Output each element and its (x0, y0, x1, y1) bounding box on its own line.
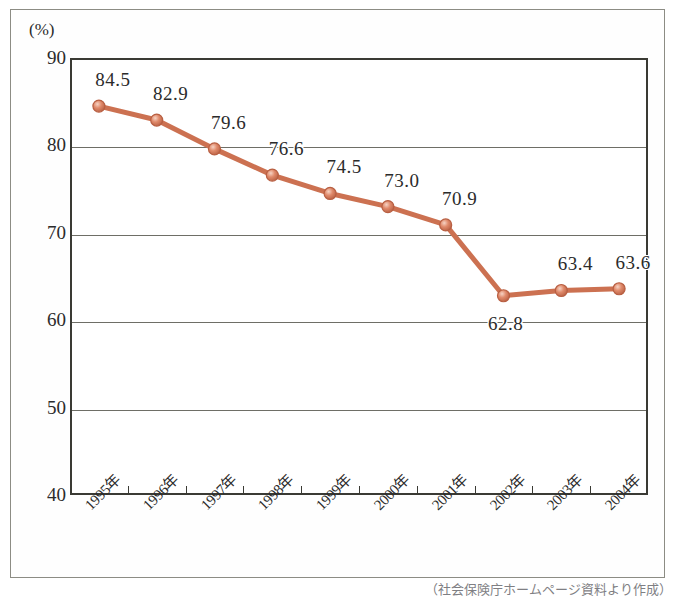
y-axis-tick-label: 90 (20, 47, 66, 69)
y-axis-unit-label: (%) (29, 20, 54, 40)
data-value-label: 62.8 (488, 313, 523, 335)
y-axis-tick-labels: 908070605040 (14, 58, 66, 495)
y-axis-tick-label: 60 (20, 309, 66, 331)
source-note: （社会保険庁ホームページ資料より作成） (0, 579, 672, 598)
data-value-label: 70.9 (442, 188, 477, 210)
data-value-label: 74.5 (326, 156, 361, 178)
data-value-labels: 84.582.979.676.674.573.070.962.863.463.6 (70, 58, 648, 495)
data-value-label: 79.6 (211, 112, 246, 134)
data-value-label: 63.4 (558, 253, 593, 275)
y-axis-tick-label: 70 (20, 222, 66, 244)
y-axis-tick-label: 80 (20, 134, 66, 156)
x-axis-category-labels: 1995年1996年1997年1998年1999年2000年2001年2002年… (70, 497, 648, 577)
y-axis-tick-label: 40 (20, 484, 66, 506)
data-value-label: 84.5 (95, 69, 130, 91)
data-value-label: 73.0 (384, 170, 419, 192)
data-value-label: 63.6 (615, 252, 650, 274)
data-value-label: 82.9 (153, 83, 188, 105)
data-value-label: 76.6 (269, 138, 304, 160)
y-axis-tick-label: 50 (20, 397, 66, 419)
